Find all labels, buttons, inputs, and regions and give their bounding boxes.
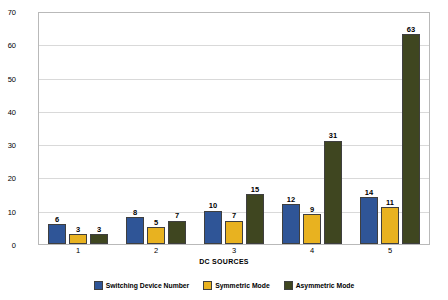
bar-value-label: 3 (97, 226, 101, 234)
bar (324, 141, 342, 244)
legend: Switching Device NumberSymmetric ModeAsy… (0, 281, 448, 290)
bar-groups: 6338571071512931141163 (39, 12, 429, 244)
x-axis-ticks: 12345 (39, 246, 429, 255)
bar-column: 5 (147, 12, 165, 244)
bar-value-label: 63 (407, 26, 415, 34)
legend-swatch (284, 281, 293, 290)
bar-value-label: 31 (329, 132, 337, 140)
bar-value-label: 7 (232, 212, 236, 220)
bar (381, 207, 399, 244)
bar (147, 227, 165, 244)
bar-column: 7 (225, 12, 243, 244)
legend-swatch (94, 281, 103, 290)
bar-value-label: 8 (133, 209, 137, 217)
bar-group: 10715 (200, 12, 268, 244)
legend-label: Symmetric Mode (215, 282, 269, 289)
bar-group: 633 (44, 12, 112, 244)
bar-value-label: 10 (209, 202, 217, 210)
bar-column: 14 (360, 12, 378, 244)
bar-column: 63 (402, 12, 420, 244)
y-tick-label: 50 (0, 74, 16, 83)
y-tick-label: 60 (0, 41, 16, 50)
bar-value-label: 14 (365, 189, 373, 197)
bar (246, 194, 264, 244)
bar-value-label: 15 (251, 186, 259, 194)
bar-value-label: 7 (175, 212, 179, 220)
bar-group: 12931 (278, 12, 346, 244)
bar-chart: OUTPUT LEVEL 010203040506070 63385710715… (0, 0, 448, 300)
x-axis-title: DC SOURCES (0, 258, 448, 265)
bar (48, 224, 66, 244)
bar-column: 10 (204, 12, 222, 244)
bar-value-label: 6 (55, 216, 59, 224)
bar (69, 234, 87, 244)
bar-column: 3 (69, 12, 87, 244)
bar (168, 221, 186, 244)
bar-column: 3 (90, 12, 108, 244)
legend-label: Switching Device Number (106, 282, 189, 289)
x-tick-label: 3 (200, 246, 268, 255)
bar (402, 34, 420, 244)
legend-item: Switching Device Number (94, 281, 189, 290)
x-tick-label: 2 (122, 246, 190, 255)
bar-value-label: 5 (154, 219, 158, 227)
x-tick-label: 1 (44, 246, 112, 255)
bar-column: 11 (381, 12, 399, 244)
bar-value-label: 3 (76, 226, 80, 234)
bar-column: 12 (282, 12, 300, 244)
bar (126, 217, 144, 244)
x-tick-label: 4 (278, 246, 346, 255)
bar-value-label: 9 (310, 206, 314, 214)
y-tick-label: 30 (0, 141, 16, 150)
legend-label: Asymmetric Mode (296, 282, 355, 289)
legend-swatch (203, 281, 212, 290)
y-tick-label: 70 (0, 8, 16, 17)
legend-item: Symmetric Mode (203, 281, 269, 290)
bar-value-label: 11 (386, 199, 394, 207)
bar-group: 857 (122, 12, 190, 244)
x-tick-label: 5 (356, 246, 424, 255)
legend-item: Asymmetric Mode (284, 281, 355, 290)
bar (303, 214, 321, 244)
bar (204, 211, 222, 244)
y-tick-label: 10 (0, 207, 16, 216)
bar-value-label: 12 (287, 196, 295, 204)
bar-column: 9 (303, 12, 321, 244)
bar (225, 221, 243, 244)
y-tick-label: 20 (0, 174, 16, 183)
bar-group: 141163 (356, 12, 424, 244)
bar-column: 31 (324, 12, 342, 244)
y-tick-label: 40 (0, 107, 16, 116)
bar-column: 7 (168, 12, 186, 244)
bar-column: 6 (48, 12, 66, 244)
bar (90, 234, 108, 244)
y-tick-label: 0 (0, 241, 16, 250)
bar (282, 204, 300, 244)
bar-column: 8 (126, 12, 144, 244)
bar-column: 15 (246, 12, 264, 244)
bar (360, 197, 378, 244)
